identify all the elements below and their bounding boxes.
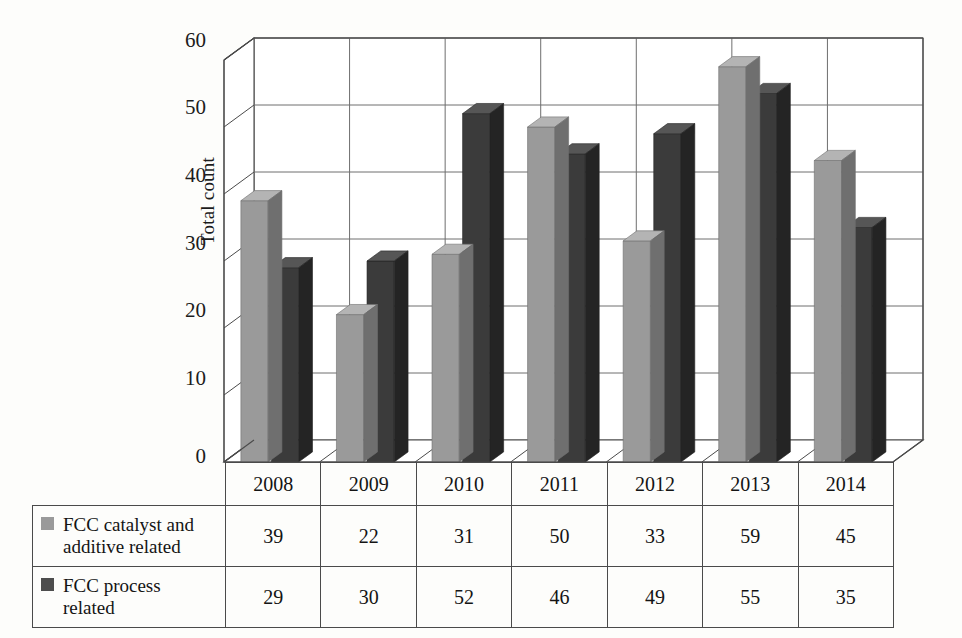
value-series-1-2012: 33	[607, 506, 702, 567]
value-series-2-2008: 29	[226, 567, 321, 628]
legend-swatch-icon-series-2	[41, 578, 54, 591]
table-row-series-2: FCC process related 29 30 52 46 49 55 35	[33, 567, 894, 628]
year-header-2012: 2012	[607, 463, 702, 506]
legend-label-series-2-line2: related	[63, 597, 115, 618]
value-series-1-2014: 45	[798, 506, 893, 567]
year-header-2014: 2014	[798, 463, 893, 506]
legend-entry-series-1: FCC catalyst and additive related	[33, 506, 226, 567]
year-header-2013: 2013	[703, 463, 798, 506]
data-table: 2008 2009 2010 2011 2012 2013 2014 FCC c…	[32, 462, 894, 628]
value-series-1-2009: 22	[321, 506, 416, 567]
legend-swatch-icon-series-1	[41, 517, 54, 530]
value-series-1-2010: 31	[416, 506, 511, 567]
year-header-2010: 2010	[416, 463, 511, 506]
plot-area	[196, 28, 936, 474]
chart-figure: Total count 60 50 40 30 20 10 0 2008 20	[0, 0, 962, 638]
value-series-2-2014: 35	[798, 567, 893, 628]
legend-entry-series-2: FCC process related	[33, 567, 226, 628]
value-series-1-2008: 39	[226, 506, 321, 567]
value-series-2-2010: 52	[416, 567, 511, 628]
value-series-2-2012: 49	[607, 567, 702, 628]
table-row-series-1: FCC catalyst and additive related 39 22 …	[33, 506, 894, 567]
legend-label-series-2-line1: FCC process	[63, 575, 161, 596]
plot-svg	[196, 28, 936, 474]
value-series-2-2011: 46	[512, 567, 607, 628]
value-series-2-2009: 30	[321, 567, 416, 628]
value-series-2-2013: 55	[703, 567, 798, 628]
legend-label-series-1-line2: additive related	[63, 536, 181, 557]
table-row-years: 2008 2009 2010 2011 2012 2013 2014	[33, 463, 894, 506]
legend-label-series-1-line1: FCC catalyst and	[63, 514, 194, 535]
value-series-1-2013: 59	[703, 506, 798, 567]
table-corner-spacer	[33, 463, 226, 506]
year-header-2009: 2009	[321, 463, 416, 506]
value-series-1-2011: 50	[512, 506, 607, 567]
year-header-2008: 2008	[226, 463, 321, 506]
year-header-2011: 2011	[512, 463, 607, 506]
